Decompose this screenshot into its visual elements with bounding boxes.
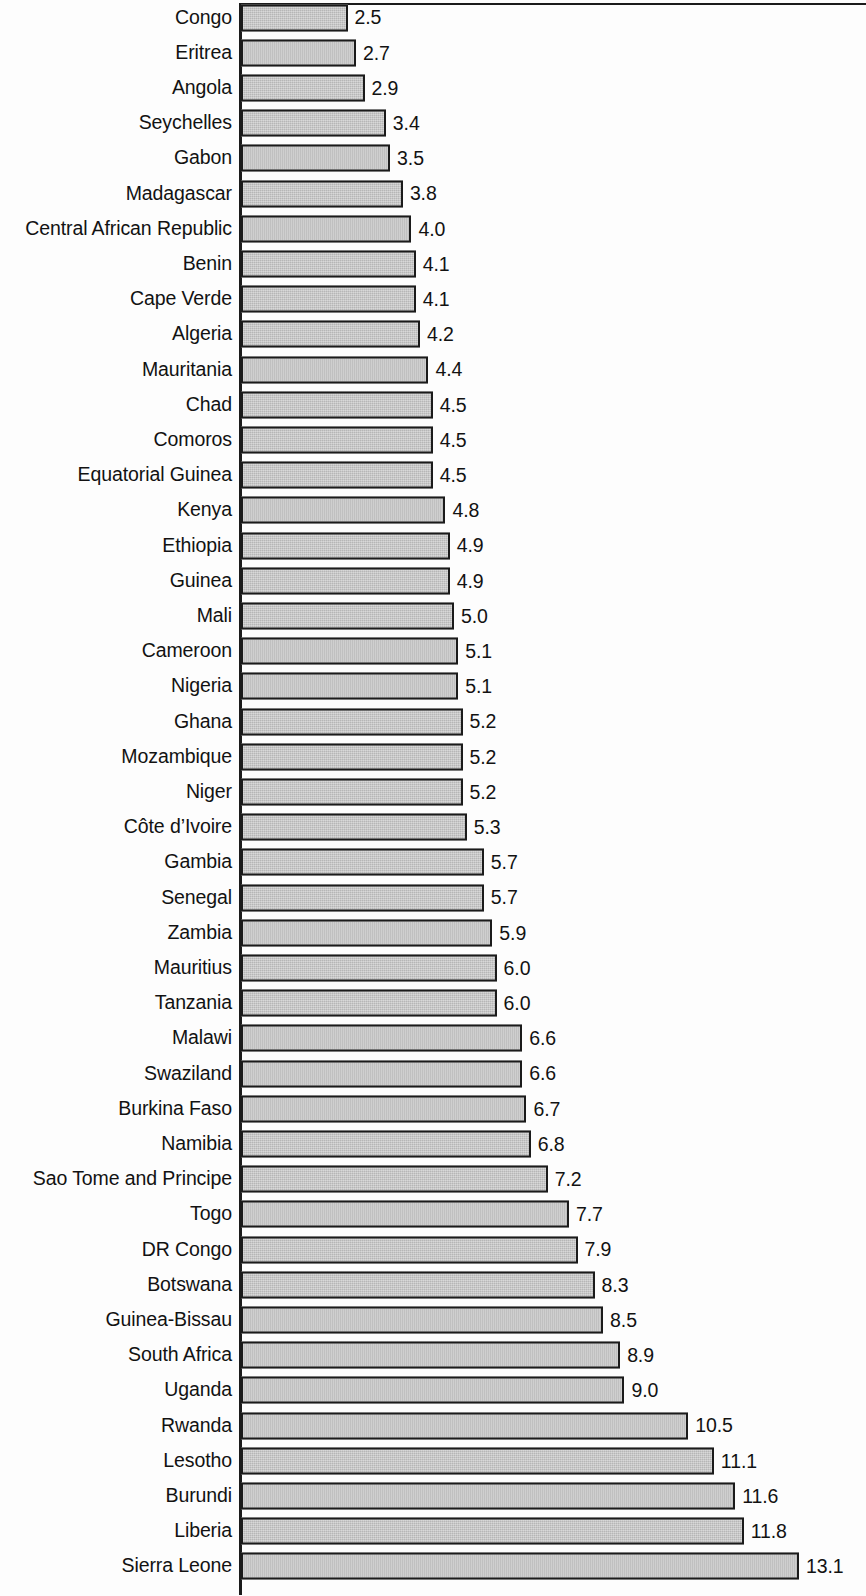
bar-and-value: 4.9 xyxy=(241,532,484,559)
bar-row: Mali5.0 xyxy=(0,598,866,633)
category-label: Benin xyxy=(183,254,232,274)
bar xyxy=(241,1060,522,1087)
bar-and-value: 5.0 xyxy=(241,602,488,629)
bar xyxy=(241,497,445,524)
bar-row: Central African Republic4.0 xyxy=(0,211,866,246)
bar xyxy=(241,1306,603,1333)
category-label: South Africa xyxy=(128,1345,232,1365)
bar-value-label: 9.0 xyxy=(631,1381,658,1401)
bar xyxy=(241,356,428,383)
bar-value-label: 10.5 xyxy=(695,1416,733,1436)
bar-and-value: 7.9 xyxy=(241,1236,611,1263)
bar-row: Malawi6.6 xyxy=(0,1021,866,1056)
bar-and-value: 4.2 xyxy=(241,321,454,348)
category-label: Cameroon xyxy=(142,641,232,661)
bar xyxy=(241,74,365,101)
bar xyxy=(241,1166,548,1193)
bar xyxy=(241,1130,531,1157)
bar-value-label: 8.9 xyxy=(627,1345,654,1365)
bar-row: Mauritania4.4 xyxy=(0,352,866,387)
category-label: Chad xyxy=(186,395,232,415)
bar-value-label: 8.5 xyxy=(610,1310,637,1330)
bar-and-value: 4.1 xyxy=(241,250,449,277)
bar-value-label: 4.5 xyxy=(440,395,467,415)
bar-value-label: 11.6 xyxy=(742,1486,778,1506)
bar-value-label: 2.5 xyxy=(355,8,382,28)
bar-value-label: 4.8 xyxy=(452,501,479,521)
bar xyxy=(241,145,390,172)
bar-row: Comoros4.5 xyxy=(0,422,866,457)
bar-row: Seychelles3.4 xyxy=(0,106,866,141)
category-label: Mali xyxy=(197,606,232,626)
bar-row: Burundi11.6 xyxy=(0,1478,866,1513)
category-label: Namibia xyxy=(161,1134,232,1154)
bar-row: Swaziland6.6 xyxy=(0,1056,866,1091)
bar-row: Mozambique5.2 xyxy=(0,739,866,774)
bar-and-value: 8.3 xyxy=(241,1271,628,1298)
bar-and-value: 4.4 xyxy=(241,356,462,383)
category-label: Guinea-Bissau xyxy=(105,1310,232,1330)
bar-value-label: 5.2 xyxy=(470,712,497,732)
bar-row: Gabon3.5 xyxy=(0,141,866,176)
category-label: Rwanda xyxy=(161,1416,232,1436)
bar-row: Liberia11.8 xyxy=(0,1514,866,1549)
bar-row: Togo7.7 xyxy=(0,1197,866,1232)
bar-value-label: 4.2 xyxy=(427,325,454,345)
bar-row: Rwanda10.5 xyxy=(0,1408,866,1443)
category-label: Burkina Faso xyxy=(118,1099,232,1119)
bar-value-label: 6.0 xyxy=(504,993,531,1013)
bar-and-value: 10.5 xyxy=(241,1412,733,1439)
bar xyxy=(241,743,463,770)
bar-value-label: 5.7 xyxy=(491,888,518,908)
bar xyxy=(241,426,433,453)
bar-value-label: 6.6 xyxy=(529,1064,556,1084)
bar xyxy=(241,1025,522,1052)
bar xyxy=(241,954,497,981)
bar-and-value: 4.5 xyxy=(241,462,467,489)
bar-and-value: 4.0 xyxy=(241,215,445,242)
category-label: Liberia xyxy=(174,1521,232,1541)
bar-value-label: 4.5 xyxy=(440,430,467,450)
bar xyxy=(241,919,492,946)
bar-value-label: 7.2 xyxy=(555,1169,582,1189)
bar xyxy=(241,532,450,559)
category-label: Senegal xyxy=(161,888,232,908)
bar xyxy=(241,1201,569,1228)
bar-value-label: 4.9 xyxy=(457,571,484,591)
category-label: Madagascar xyxy=(126,184,232,204)
bar xyxy=(241,990,497,1017)
bar-row: Guinea4.9 xyxy=(0,563,866,598)
bar-and-value: 5.2 xyxy=(241,708,496,735)
category-label: Côte d’Ivoire xyxy=(124,817,232,837)
bar-row: Niger5.2 xyxy=(0,774,866,809)
bar-and-value: 4.5 xyxy=(241,391,467,418)
bar-row: Sierra Leone13.1 xyxy=(0,1549,866,1584)
bar-value-label: 5.3 xyxy=(474,817,501,837)
bar-value-label: 4.1 xyxy=(423,254,450,274)
bar-row: Cameroon5.1 xyxy=(0,634,866,669)
bar xyxy=(241,321,420,348)
category-label: Central African Republic xyxy=(25,219,232,239)
bar-and-value: 4.8 xyxy=(241,497,479,524)
bar-and-value: 5.7 xyxy=(241,884,518,911)
bar-value-label: 2.9 xyxy=(372,78,399,98)
bar-and-value: 4.9 xyxy=(241,567,484,594)
category-label: Zambia xyxy=(168,923,232,943)
category-label: Mozambique xyxy=(121,747,232,767)
category-label: Swaziland xyxy=(144,1064,232,1084)
bar-and-value: 5.3 xyxy=(241,814,501,841)
bar-value-label: 6.8 xyxy=(538,1134,565,1154)
bar-and-value: 6.0 xyxy=(241,990,530,1017)
category-label: Sierra Leone xyxy=(122,1557,232,1577)
bar-row: Uganda9.0 xyxy=(0,1373,866,1408)
bar-row: Madagascar3.8 xyxy=(0,176,866,211)
category-label: Burundi xyxy=(165,1486,232,1506)
bar-and-value: 11.8 xyxy=(241,1518,787,1545)
bar-value-label: 4.4 xyxy=(435,360,462,380)
bar xyxy=(241,1518,744,1545)
category-label: DR Congo xyxy=(142,1240,232,1260)
bar xyxy=(241,708,463,735)
bar-value-label: 5.9 xyxy=(499,923,526,943)
bar xyxy=(241,638,458,665)
bar-value-label: 7.7 xyxy=(576,1205,603,1225)
